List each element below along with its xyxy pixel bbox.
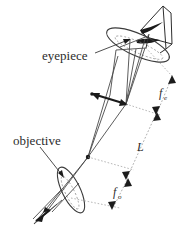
objective-lens: [52, 164, 90, 217]
focal-eyepiece-subscript: e: [164, 94, 167, 102]
objective-label: objective: [13, 133, 61, 148]
intermediate-image-arrow: [90, 92, 128, 106]
focal-objective-subscript: o: [118, 193, 122, 201]
focal-objective-label: f o: [113, 185, 122, 201]
microscope-diagram-figure: eyepiece objective L f e f o: [0, 0, 193, 234]
eye-icon: [136, 6, 172, 53]
leader-objective: [40, 147, 64, 178]
diagram-canvas: eyepiece objective L f e f o: [0, 0, 193, 234]
dimension-guides: [71, 48, 172, 208]
tube-length-label: L: [136, 140, 144, 154]
eyepiece-label: eyepiece: [42, 48, 88, 63]
focal-eyepiece-label: f e: [159, 86, 167, 102]
